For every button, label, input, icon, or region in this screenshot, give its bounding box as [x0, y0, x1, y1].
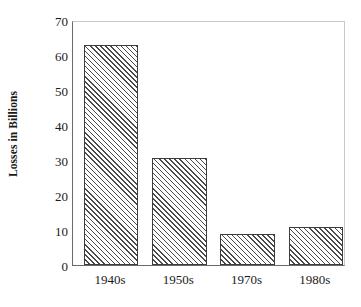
plot-area: [72, 21, 345, 266]
x-axis-tick-labels: 1940s1950s1970s1980s: [72, 272, 345, 296]
x-axis-tick-label: 1950s: [143, 272, 213, 288]
y-axis-title-label: Losses in Billions: [7, 91, 19, 177]
bars-layer: [73, 22, 344, 265]
y-axis-title: Losses in Billions: [0, 0, 26, 290]
bar-1980s: [289, 227, 344, 266]
bar-1970s: [220, 234, 275, 266]
x-axis-tick-label: 1970s: [212, 272, 282, 288]
y-axis-tick-label: 20: [30, 190, 68, 203]
x-axis-tick-label: 1940s: [75, 272, 145, 288]
x-axis-tick-label: 1980s: [280, 272, 350, 288]
y-axis-tick-label: 70: [30, 15, 68, 28]
y-axis-tick-label: 10: [30, 225, 68, 238]
y-axis-tick-labels: 010203040506070: [30, 0, 68, 307]
bar-1950s: [152, 158, 207, 265]
bar-chart: Losses in Billions 010203040506070 1940s…: [0, 0, 361, 307]
bar-1940s: [84, 45, 139, 266]
y-axis-tick-label: 40: [30, 120, 68, 133]
y-axis-tick-label: 30: [30, 155, 68, 168]
y-axis-tick-label: 0: [30, 260, 68, 273]
y-axis-tick-label: 60: [30, 50, 68, 63]
y-axis-tick-label: 50: [30, 85, 68, 98]
